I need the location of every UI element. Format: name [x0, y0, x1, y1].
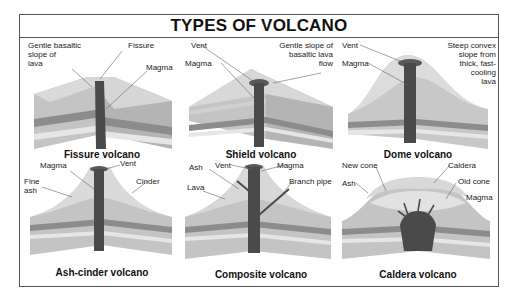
label-magma: Magma [185, 59, 212, 68]
label-vent: Vent [215, 161, 231, 170]
diagram-frame: TYPES OF VOLCANO Gentle basaltic slope o… [19, 14, 499, 287]
label-ash: Ash [342, 179, 356, 188]
label-lava: Lava [187, 183, 204, 192]
label-gentle-basaltic-slope: Gentle basaltic slope of lava [28, 41, 81, 68]
label-magma: Magma [466, 193, 493, 202]
label-vent: Vent [342, 41, 358, 50]
label-magma: Magma [342, 59, 369, 68]
panel-shield-volcano: Vent Magma Gentle slope of basaltic lava… [181, 39, 341, 164]
label-cinder: Cinder [136, 177, 160, 186]
label-fine-ash: Fine ash [24, 177, 40, 195]
caption-composite-volcano: Composite volcano [181, 269, 341, 280]
diagram-title: TYPES OF VOLCANO [171, 16, 348, 36]
label-magma: Magma [40, 161, 67, 170]
panel-ash-cinder-volcano: Magma Vent Fine ash Cinder Ash-cinder vo… [22, 159, 182, 284]
label-caldera: Caldera [448, 161, 476, 170]
panel-composite-volcano: Ash Vent Magma Lava Branch pipe Composit… [181, 159, 341, 284]
label-vent: Vent [191, 41, 207, 50]
label-steep-convex-slope: Steep convex slope from thick, fast- coo… [448, 41, 496, 86]
label-magma: Magma [277, 161, 304, 170]
label-fissure: Fissure [128, 41, 154, 50]
label-ash: Ash [189, 163, 203, 172]
panel-dome-volcano: Vent Magma Steep convex slope from thick… [338, 39, 498, 164]
label-branch-pipe: Branch pipe [289, 177, 332, 186]
panel-fissure-volcano: Gentle basaltic slope of lava Fissure Ma… [22, 39, 182, 164]
label-gentle-slope-basaltic-lava: Gentle slope of basaltic lava flow [279, 41, 333, 68]
title-bar: TYPES OF VOLCANO [20, 15, 498, 38]
caption-ash-cinder-volcano: Ash-cinder volcano [22, 267, 182, 278]
label-old-cone: Old cone [458, 177, 490, 186]
caption-caldera-volcano: Caldera volcano [338, 269, 498, 280]
label-new-cone: New cone [342, 161, 378, 170]
panel-caldera-volcano: New cone Caldera Ash Old cone Magma Cald… [338, 159, 498, 284]
label-vent: Vent [120, 159, 136, 168]
label-magma: Magma [146, 63, 173, 72]
